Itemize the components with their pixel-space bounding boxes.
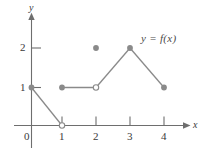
point-2-2-marker [93,45,99,51]
x-tick-label-0: 0 [24,131,30,142]
x-tick-label-3: 3 [127,131,133,142]
x-axis-arrow-icon [183,122,191,128]
point-1-1-marker [59,85,65,91]
curve-segment-1 [32,88,63,126]
function-graph-figure: y x 2 1 0 1 2 3 4 y = f(x) [0,0,209,158]
x-tick-label-2: 2 [93,131,99,142]
x-tick-label-4: 4 [161,131,167,142]
curve-annotation-label: y = f(x) [141,33,176,44]
point-1-0-marker [59,123,64,128]
curve-segment-4 [130,48,164,88]
y-tick-label-2: 2 [20,42,26,53]
curve-segment-3 [96,48,130,88]
point-0-1-marker [29,85,35,91]
x-axis-label: x [193,120,197,130]
y-axis-arrow-icon [28,13,34,20]
point-4-1-marker [161,85,167,91]
point-3-2-marker [127,45,133,51]
y-axis-label: y [29,3,33,13]
plot-area [0,0,209,158]
point-2-1-marker [93,85,98,90]
y-tick-label-1: 1 [20,82,26,93]
x-tick-label-1: 1 [59,131,65,142]
